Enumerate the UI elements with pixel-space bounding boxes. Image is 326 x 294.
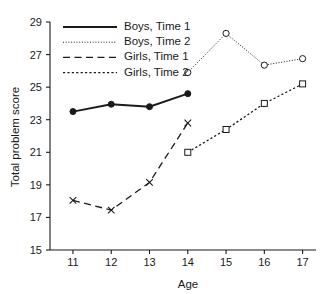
chart-container: 1517192123252729 11121314151617 Boys, Ti… xyxy=(0,0,326,294)
legend-item-4: Girls, Time 2 xyxy=(63,66,189,78)
x-tick-label: 16 xyxy=(258,256,270,268)
legend-item-1: Boys, Time 1 xyxy=(63,20,190,32)
y-tick-label: 17 xyxy=(30,211,42,223)
data-point xyxy=(223,126,229,132)
series-line xyxy=(73,123,188,210)
data-point xyxy=(261,100,267,106)
data-point xyxy=(147,104,153,110)
y-axis-title: Total problem score xyxy=(9,87,21,187)
series-3 xyxy=(70,120,191,214)
series-line xyxy=(73,94,188,112)
legend-item-label: Girls, Time 1 xyxy=(124,50,189,62)
legend-item-label: Girls, Time 2 xyxy=(124,66,189,78)
data-point xyxy=(184,120,191,127)
line-chart: 1517192123252729 11121314151617 Boys, Ti… xyxy=(0,0,326,294)
data-point xyxy=(70,109,76,115)
data-point xyxy=(185,91,191,97)
x-tick-label: 13 xyxy=(143,256,155,268)
x-tick-label: 14 xyxy=(182,256,194,268)
series-4 xyxy=(185,81,306,155)
series-2 xyxy=(185,30,306,75)
data-point xyxy=(185,149,191,155)
x-axis-title: Age xyxy=(178,278,198,290)
y-tick-label: 25 xyxy=(30,81,42,93)
data-point xyxy=(300,81,306,87)
data-point xyxy=(223,30,229,36)
y-tick-label: 19 xyxy=(30,179,42,191)
legend-item-label: Boys, Time 1 xyxy=(124,20,190,32)
x-axis-ticks: 11121314151617 xyxy=(67,250,308,268)
legend-item-label: Boys, Time 2 xyxy=(124,35,190,47)
series-1 xyxy=(70,91,191,115)
x-tick-label: 17 xyxy=(296,256,308,268)
y-axis-ticks: 1517192123252729 xyxy=(30,16,50,256)
x-tick-label: 12 xyxy=(105,256,117,268)
chart-legend: Boys, Time 1Boys, Time 2Girls, Time 1Gir… xyxy=(63,20,190,78)
y-tick-label: 21 xyxy=(30,146,42,158)
data-point xyxy=(146,179,153,186)
data-point xyxy=(108,101,114,107)
data-point xyxy=(300,56,306,62)
series-line xyxy=(188,33,303,72)
series-line xyxy=(188,84,303,152)
y-tick-label: 29 xyxy=(30,16,42,28)
legend-item-3: Girls, Time 1 xyxy=(63,50,189,62)
x-tick-label: 15 xyxy=(220,256,232,268)
y-tick-label: 27 xyxy=(30,49,42,61)
data-point xyxy=(261,62,267,68)
x-tick-label: 11 xyxy=(67,256,78,268)
y-tick-label: 23 xyxy=(30,114,42,126)
legend-item-2: Boys, Time 2 xyxy=(63,35,190,47)
y-tick-label: 15 xyxy=(30,244,42,256)
